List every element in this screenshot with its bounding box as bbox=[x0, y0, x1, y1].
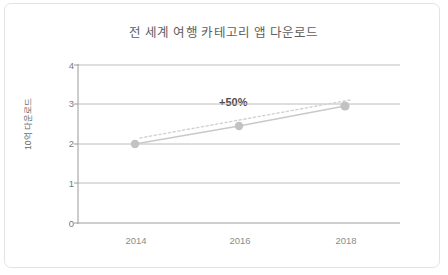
trend-line-dotted bbox=[140, 100, 350, 138]
y-axis bbox=[74, 64, 78, 224]
data-point-2016[interactable] bbox=[235, 122, 243, 130]
plot-area bbox=[0, 0, 448, 275]
gridlines bbox=[78, 65, 400, 223]
data-point-2014[interactable] bbox=[131, 140, 139, 148]
data-point-2018[interactable] bbox=[340, 101, 349, 110]
trend-line-segment bbox=[140, 100, 350, 138]
data-markers bbox=[131, 101, 350, 148]
